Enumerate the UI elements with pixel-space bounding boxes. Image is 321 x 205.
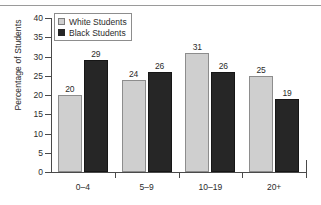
legend-item: White Students <box>58 16 127 27</box>
y-axis-tick-label: 35 <box>0 32 43 42</box>
y-axis-tick-label: 10 <box>0 129 43 139</box>
y-axis-tick-label: 5 <box>0 148 43 158</box>
bar <box>148 72 172 172</box>
legend-label-white-students: White Students <box>69 17 127 27</box>
legend-label-black-students: Black Students <box>69 28 126 38</box>
bar-value-label: 20 <box>50 84 90 94</box>
bar-value-label: 29 <box>76 49 116 59</box>
x-axis-category-label: 20+ <box>244 182 304 192</box>
bar-value-label: 26 <box>203 61 243 71</box>
bar <box>84 60 108 172</box>
bar-value-label: 25 <box>241 65 281 75</box>
bar <box>58 95 82 172</box>
y-axis-tick-label: 25 <box>0 71 43 81</box>
bar-value-label: 31 <box>177 42 217 52</box>
legend-swatch-black-students-icon <box>58 29 65 36</box>
x-axis-tick <box>179 173 180 178</box>
y-axis-tick-label: 0 <box>0 167 43 177</box>
top-rule-divider <box>0 5 321 6</box>
y-axis-tick-label: 40 <box>0 13 43 23</box>
x-axis-category-label: 10–19 <box>180 182 240 192</box>
bar <box>275 99 299 172</box>
plot-right-edge <box>306 160 307 173</box>
y-axis-tick <box>45 172 51 173</box>
legend-swatch-white-students-icon <box>58 18 65 25</box>
y-axis-tick-label: 30 <box>0 52 43 62</box>
x-axis-tick <box>306 173 307 178</box>
x-axis-tick <box>242 173 243 178</box>
bar <box>211 72 235 172</box>
y-axis-tick-label: 20 <box>0 90 43 100</box>
x-axis-tick <box>115 173 116 178</box>
legend-item: Black Students <box>58 27 127 38</box>
x-axis-category-label: 0–4 <box>53 182 113 192</box>
chart-legend: White Students Black Students <box>54 13 132 41</box>
bar-value-label: 19 <box>267 88 307 98</box>
y-axis-tick-label: 15 <box>0 109 43 119</box>
bar-chart: Percentage of Students 0510152025303540 … <box>0 0 321 205</box>
bar-value-label: 26 <box>140 61 180 71</box>
bar <box>122 80 146 172</box>
x-axis-category-label: 5–9 <box>117 182 177 192</box>
